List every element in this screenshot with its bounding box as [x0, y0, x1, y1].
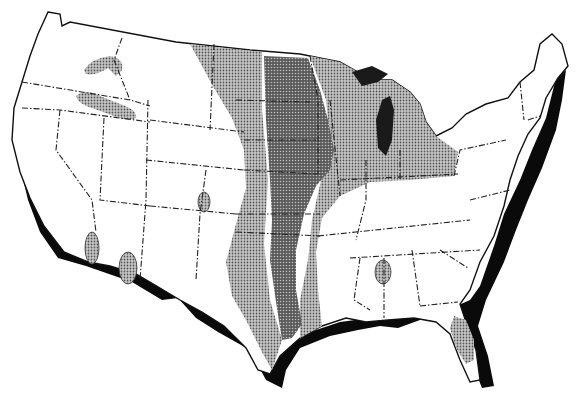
zone-light-socal-patch-1 [85, 232, 99, 264]
zone-light-mississippi-spot [375, 260, 391, 284]
us-zone-map [0, 0, 580, 397]
zone-light-socal-patch-2 [119, 252, 137, 284]
zone-light-colorado-spot [198, 192, 210, 212]
